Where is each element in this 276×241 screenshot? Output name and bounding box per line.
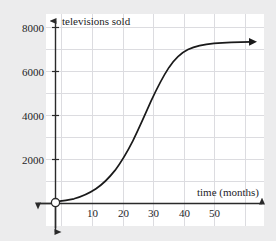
y-tick-label-4000: 4000	[22, 110, 45, 122]
x-tick-label-50: 50	[209, 207, 221, 219]
x-tick-label-20: 20	[118, 207, 130, 219]
y-axis-label: televisions sold	[62, 15, 131, 27]
y-tick-label-6000: 6000	[22, 66, 45, 78]
x-tick-label-30: 30	[148, 207, 160, 219]
y-tick-label-8000: 8000	[22, 22, 45, 34]
chart-figure: 8000 6000 4000 2000 10 20 30 40 50 telev…	[0, 0, 276, 241]
televisions-sold-line-chart: 8000 6000 4000 2000 10 20 30 40 50 telev…	[0, 0, 276, 241]
x-axis-label: time (months)	[197, 186, 259, 199]
origin-open-circle-marker	[51, 199, 59, 207]
x-tick-label-10: 10	[87, 207, 99, 219]
y-tick-label-2000: 2000	[22, 154, 45, 166]
x-tick-label-40: 40	[179, 207, 191, 219]
